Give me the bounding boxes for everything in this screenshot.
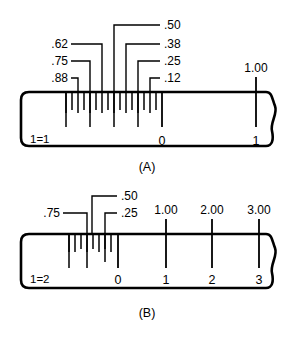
callout-label-a-062: .62 — [51, 37, 68, 51]
callout-label-b-050: .50 — [121, 189, 138, 203]
leader-a-038 — [126, 44, 160, 92]
caption-b: (B) — [139, 306, 156, 320]
major-label-a-1-bottom: 1 — [253, 134, 260, 148]
leader-a-075 — [71, 61, 90, 92]
major-label-a-1-top: 1.00 — [244, 61, 268, 75]
leader-a-088 — [71, 78, 78, 92]
major-label-b-1-bottom: 1 — [163, 273, 170, 287]
ratio-label-a: 1=1 — [30, 133, 50, 145]
leader-b-025 — [105, 213, 117, 234]
caption-a: (A) — [139, 160, 156, 174]
leader-a-050 — [114, 25, 160, 92]
leader-a-062 — [71, 44, 102, 92]
callout-label-a-075: .75 — [51, 54, 68, 68]
major-label-b-3-bottom: 3 — [256, 273, 263, 287]
callout-label-b-025: .25 — [121, 206, 138, 220]
major-label-b-2-top: 2.00 — [200, 203, 224, 217]
panel-b: .75 .50 .25 1.00 2.00 3.00 1 2 3 0 1=2 (… — [21, 189, 276, 320]
callout-label-a-088: .88 — [51, 71, 68, 85]
leader-a-012 — [150, 78, 160, 92]
ruler-body-a — [21, 92, 276, 146]
major-label-b-3-top: 3.00 — [247, 203, 271, 217]
major-label-b-2-bottom: 2 — [209, 273, 216, 287]
panel-a: .62 .75 .88 .50 .38 .25 .12 1.00 1 0 1=1… — [21, 18, 276, 174]
zero-label-b: 0 — [115, 273, 122, 287]
ruler-body-b — [21, 234, 276, 288]
ratio-label-b: 1=2 — [30, 273, 50, 285]
vernier-scale-figure: .62 .75 .88 .50 .38 .25 .12 1.00 1 0 1=1… — [0, 0, 306, 337]
zero-label-a: 0 — [159, 134, 166, 148]
leader-b-075 — [63, 213, 87, 234]
callout-label-b-075: .75 — [43, 206, 60, 220]
figure-canvas: .62 .75 .88 .50 .38 .25 .12 1.00 1 0 1=1… — [0, 0, 306, 337]
callout-label-a-038: .38 — [164, 37, 181, 51]
callout-label-a-025: .25 — [164, 54, 181, 68]
callout-label-a-050: .50 — [164, 18, 181, 32]
callout-label-a-012: .12 — [164, 71, 181, 85]
major-label-b-1-top: 1.00 — [154, 203, 178, 217]
leader-a-025 — [138, 61, 160, 92]
